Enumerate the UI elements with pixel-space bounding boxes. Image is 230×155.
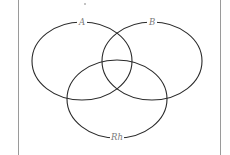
set-rh-label: Rh (110, 132, 123, 142)
set-b-ellipse (102, 22, 202, 100)
set-b-label: B (148, 17, 155, 27)
set-b-label-group: B (147, 17, 157, 27)
set-rh-label-group: Rh (110, 132, 124, 142)
set-a-label-group: A (77, 17, 87, 27)
set-rh-ellipse (67, 60, 167, 138)
venn-diagram: A B Rh (0, 0, 230, 155)
marker-dot (84, 3, 86, 5)
set-a-label: A (78, 17, 85, 27)
